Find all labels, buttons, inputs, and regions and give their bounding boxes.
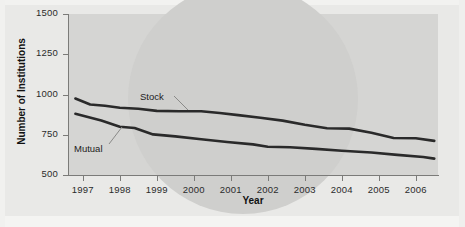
x-axis-tick [268,176,269,181]
plot-area: Stock Mutual [68,14,438,175]
y-axis-tick [63,175,69,176]
y-axis-tick [63,95,69,96]
x-axis-tick [83,176,84,181]
y-axis-tick-label: 1250 [0,47,58,58]
x-axis-tick-label: 1998 [100,184,140,195]
x-axis-tick [194,176,195,181]
x-axis-tick-label: 2000 [174,184,214,195]
x-axis-title: Year [183,195,323,206]
y-axis-tick-label: 1500 [0,7,58,18]
x-axis-tick [305,176,306,181]
series-label-mutual: Mutual [74,143,103,154]
leader-line-mutual [109,127,122,144]
y-axis-tick-label: 500 [0,168,58,179]
x-axis-tick-label: 2001 [211,184,251,195]
frame-left-band [0,0,5,227]
y-axis-title: Number of Institutions [16,27,27,157]
x-axis-tick [416,176,417,181]
x-axis-tick [379,176,380,181]
x-axis-tick-label: 2004 [322,184,362,195]
chart-figure: Stock Mutual 500750100012501500 19971998… [0,0,465,227]
x-axis-line [68,175,439,176]
x-axis-tick-label: 2005 [359,184,399,195]
x-axis-tick [120,176,121,181]
x-axis-tick-label: 1997 [63,184,103,195]
leader-line-stock [174,96,188,110]
y-axis-tick [63,14,69,15]
series-layer [68,14,438,175]
y-axis-tick-label: 1000 [0,88,58,99]
x-axis-tick-label: 2002 [248,184,288,195]
line-series-stock [75,99,434,141]
frame-bottom-band [0,216,465,227]
x-axis-tick-label: 2006 [396,184,436,195]
frame-right-band [459,0,465,227]
y-axis-tick [63,135,69,136]
series-label-stock: Stock [140,91,164,102]
x-axis-tick [231,176,232,181]
x-axis-tick-label: 1999 [137,184,177,195]
x-axis-tick [342,176,343,181]
y-axis-tick [63,54,69,55]
x-axis-tick-label: 2003 [285,184,325,195]
y-axis-tick-label: 750 [0,128,58,139]
x-axis-tick [157,176,158,181]
